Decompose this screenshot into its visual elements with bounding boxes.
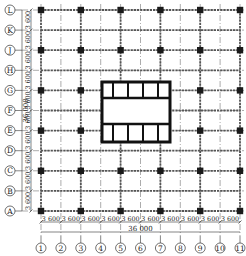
row-label: A [6, 207, 13, 216]
column-node [117, 168, 123, 174]
column-node [117, 208, 123, 214]
column-node [237, 7, 243, 13]
column-label: 10 [215, 244, 225, 253]
column-label: 11 [235, 244, 245, 253]
column-node [78, 208, 84, 214]
row-label: K [7, 26, 13, 35]
column-node [197, 168, 203, 174]
row-label: E [7, 126, 12, 135]
column-node [78, 168, 84, 174]
row-spacing-dimension: 3 600 [24, 51, 32, 69]
column-node [157, 7, 163, 13]
column-spacing-dimension: 3 600 [82, 215, 100, 223]
column-spacing-dimension: 3 600 [121, 215, 139, 223]
column-spacing-dimension: 3 600 [42, 215, 60, 223]
column-node [157, 47, 163, 53]
column-node [237, 208, 243, 214]
column-spacing-dimension: 3 600 [221, 215, 239, 223]
central-core [102, 82, 170, 142]
column-spacing-dimension: 3 600 [102, 215, 120, 223]
column-node [78, 87, 84, 93]
column-label: 9 [198, 244, 203, 253]
column-label: 5 [118, 244, 123, 253]
column-node [197, 87, 203, 93]
column-label: 2 [59, 244, 64, 253]
structural-grid-plan: LKJHGFEDCBA1234567891011 3 6003 6003 600… [0, 0, 246, 256]
row-label: J [7, 46, 11, 55]
column-node [78, 47, 84, 53]
column-label: 4 [98, 244, 103, 253]
row-spacing-dimension: 3 600 [24, 31, 32, 49]
column-spacing-dimension: 3 600 [62, 215, 80, 223]
column-node [38, 168, 44, 174]
column-spacing-dimension: 3 600 [141, 215, 159, 223]
column-label: 1 [39, 244, 44, 253]
column-node [237, 87, 243, 93]
column-spacing-dimension: 3 600 [201, 215, 219, 223]
column-total-dimension: 36 000 [128, 225, 153, 233]
row-label: H [7, 66, 14, 75]
column-node [38, 208, 44, 214]
row-spacing-dimension: 3 600 [24, 11, 32, 29]
column-spacing-dimension: 3 600 [181, 215, 199, 223]
column-node [197, 47, 203, 53]
column-node [78, 7, 84, 13]
column-node [197, 127, 203, 133]
row-label: C [7, 166, 13, 175]
column-label: 3 [78, 244, 83, 253]
column-node [157, 208, 163, 214]
row-spacing-dimension: 3 600 [24, 152, 32, 170]
column-node [38, 47, 44, 53]
column-node [197, 208, 203, 214]
column-node [78, 127, 84, 133]
row-label: D [7, 146, 13, 155]
row-label: L [8, 6, 13, 15]
column-node [117, 7, 123, 13]
row-label: B [7, 187, 13, 196]
row-label: G [7, 86, 13, 95]
row-spacing-dimension: 3 600 [24, 192, 32, 210]
row-spacing-dimension: 3 600 [24, 71, 32, 89]
column-label: 7 [158, 244, 163, 253]
column-node [117, 47, 123, 53]
column-node [237, 168, 243, 174]
column-node [38, 87, 44, 93]
column-spacing-dimension: 3 600 [161, 215, 179, 223]
column-node [38, 7, 44, 13]
column-node [38, 127, 44, 133]
column-node [237, 127, 243, 133]
row-spacing-dimension: 3 600 [24, 172, 32, 190]
row-spacing-dimension: 3 600 [24, 132, 32, 150]
row-label: F [7, 106, 12, 115]
column-node [197, 7, 203, 13]
row-total-dimension: 36 000 [22, 98, 30, 123]
column-node [157, 168, 163, 174]
column-label: 6 [138, 244, 143, 253]
column-label: 8 [178, 244, 183, 253]
column-node [237, 47, 243, 53]
